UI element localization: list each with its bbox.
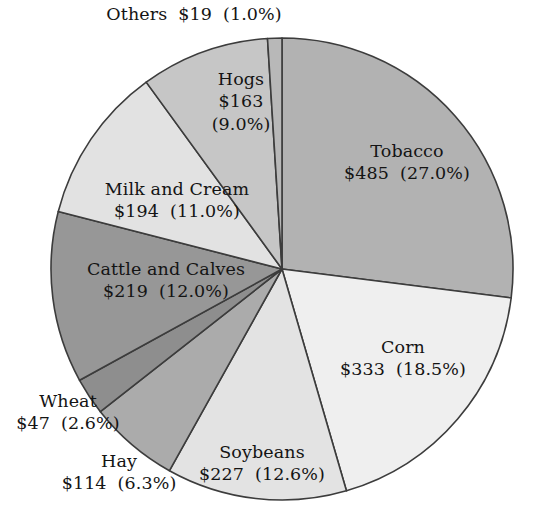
slice-label-hay-value: $114 (62, 473, 107, 493)
slice-label-cattle-and-calves-value: $219 (103, 281, 148, 301)
slice-label-wheat-percent: (2.6%) (61, 413, 120, 433)
slice-label-others-percent: (1.0%) (223, 4, 282, 24)
slice-label-others-name: Others (106, 4, 167, 24)
slice-label-hogs-name: Hogs (186, 68, 296, 90)
slice-label-hogs: Hogs $163 (9.0%) (186, 68, 296, 135)
slice-label-soybeans-value: $227 (199, 464, 244, 484)
slice-label-tobacco-values: $485(27.0%) (322, 162, 492, 184)
pie-chart: Others$19(1.0%) Hogs $163 (9.0%) Tobacco… (0, 0, 534, 524)
slice-label-milk-and-cream-name: Milk and Cream (72, 178, 282, 200)
slice-label-milk-and-cream: Milk and Cream $194(11.0%) (72, 178, 282, 223)
slice-label-milk-and-cream-percent: (11.0%) (170, 201, 240, 221)
slice-label-hogs-value: $163 (186, 90, 296, 112)
slice-label-soybeans-percent: (12.6%) (255, 464, 325, 484)
slice-label-milk-and-cream-values: $194(11.0%) (72, 200, 282, 222)
slice-label-wheat-name: Wheat (2, 390, 134, 412)
slice-label-wheat-values: $47(2.6%) (2, 412, 134, 434)
slice-label-hogs-percent: (9.0%) (186, 113, 296, 135)
slice-label-corn-name: Corn (318, 336, 488, 358)
slice-label-tobacco-percent: (27.0%) (400, 163, 470, 183)
slice-label-cattle-and-calves-name: Cattle and Calves (56, 258, 276, 280)
slice-label-corn-percent: (18.5%) (396, 359, 466, 379)
slice-label-corn-value: $333 (340, 359, 385, 379)
slice-label-cattle-and-calves: Cattle and Calves $219(12.0%) (56, 258, 276, 303)
slice-label-corn: Corn $333(18.5%) (318, 336, 488, 381)
slice-label-wheat-value: $47 (16, 413, 50, 433)
slice-label-cattle-and-calves-percent: (12.0%) (159, 281, 229, 301)
slice-label-soybeans: Soybeans $227(12.6%) (172, 441, 352, 486)
slice-label-wheat: Wheat $47(2.6%) (2, 390, 134, 435)
slice-label-others-value: $19 (178, 4, 212, 24)
slice-label-milk-and-cream-value: $194 (114, 201, 159, 221)
slice-label-tobacco: Tobacco $485(27.0%) (322, 140, 492, 185)
slice-label-hay-percent: (6.3%) (118, 473, 177, 493)
slice-label-cattle-and-calves-values: $219(12.0%) (56, 280, 276, 302)
slice-label-corn-values: $333(18.5%) (318, 358, 488, 380)
slice-label-others: Others$19(1.0%) (84, 3, 304, 25)
slice-label-hay-name: Hay (44, 450, 194, 472)
slice-label-hay: Hay $114(6.3%) (44, 450, 194, 495)
slice-label-soybeans-name: Soybeans (172, 441, 352, 463)
slice-label-tobacco-value: $485 (344, 163, 389, 183)
slice-label-tobacco-name: Tobacco (322, 140, 492, 162)
slice-label-soybeans-values: $227(12.6%) (172, 463, 352, 485)
slice-label-hay-values: $114(6.3%) (44, 472, 194, 494)
